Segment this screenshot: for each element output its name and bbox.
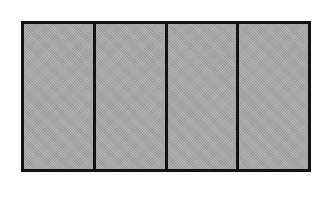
divided-rectangle [21,21,311,172]
rectangle-part-3 [165,24,237,169]
rectangle-part-2 [93,24,165,169]
rectangle-part-4 [236,24,308,169]
diagram-canvas [0,0,334,212]
rectangle-part-1 [24,24,93,169]
